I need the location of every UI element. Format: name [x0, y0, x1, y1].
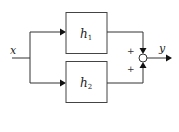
edge-h1-to-sum — [107, 32, 143, 50]
block-diagram: x h1 h2 + + y — [0, 0, 179, 132]
arrow-to-h2 — [60, 80, 66, 87]
edge-h2-to-sum — [107, 66, 143, 83]
arrow-h1-to-sum — [140, 48, 147, 54]
summing-junction — [139, 54, 147, 62]
arrow-to-h1 — [60, 29, 66, 36]
sign-plus-bottom: + — [127, 64, 135, 74]
input-label-x: x — [10, 44, 17, 57]
arrow-output — [166, 55, 172, 62]
sign-plus-top: + — [127, 46, 135, 56]
output-label-y: y — [158, 42, 166, 55]
arrow-h2-to-sum — [140, 62, 147, 68]
